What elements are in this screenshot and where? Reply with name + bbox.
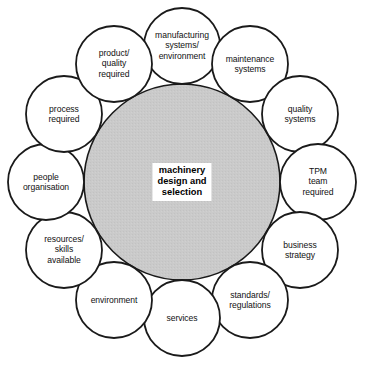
satellite-label-services: services [166, 313, 197, 323]
satellite-label-manufacturing-systems-environment: manufacturing systems/ environment [155, 30, 209, 61]
satellite-label-standards-regulations: standards/ regulations [229, 290, 271, 311]
satellite-label-product-quality-required: product/ quality required [98, 48, 129, 79]
satellite-label-process-required: process required [48, 104, 79, 125]
satellite-label-tpm-team-required: TPM team required [302, 166, 333, 197]
satellite-label-people-organisation: people organisation [23, 172, 69, 193]
satellite-label-environment: environment [91, 295, 138, 305]
satellite-label-resources-skills-available: resources/ skills available [44, 234, 84, 265]
satellite-label-business-strategy: business strategy [283, 240, 317, 261]
diagram-canvas: machinery design and selection manufactu… [0, 0, 368, 379]
satellite-label-maintenance-systems: maintenance systems [226, 54, 275, 75]
satellite-label-quality-systems: quality systems [284, 104, 315, 125]
center-node-label: machinery design and selection [152, 163, 211, 201]
